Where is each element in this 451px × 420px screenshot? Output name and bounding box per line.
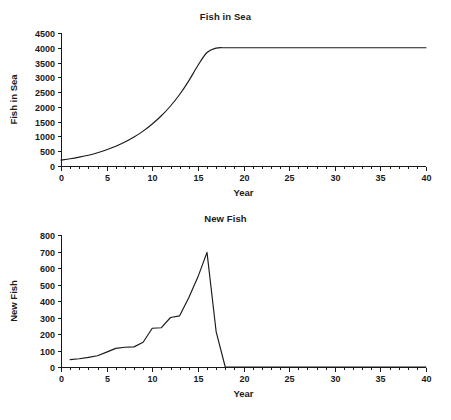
y-tick-label: 100 (40, 347, 55, 357)
plot-svg-fish-in-sea: 0500100015002000250030003500400045000510… (0, 23, 451, 205)
axis-lines (62, 235, 427, 368)
x-tick-label: 25 (284, 374, 294, 384)
x-tick-label: 0 (59, 173, 64, 183)
chart-title-new-fish: New Fish (0, 210, 451, 225)
y-axis-title: Fish in Sea (8, 74, 19, 125)
x-tick-label: 5 (105, 173, 110, 183)
x-tick-label: 15 (193, 173, 203, 183)
chart-title-fish-in-sea: Fish in Sea (0, 8, 451, 23)
y-tick-label: 400 (40, 297, 55, 307)
x-tick-label: 35 (375, 173, 385, 183)
y-tick-label: 3000 (35, 73, 55, 83)
y-tick-label: 4500 (35, 29, 55, 39)
y-tick-label: 2000 (35, 103, 55, 113)
x-tick-label: 15 (193, 374, 203, 384)
series-line-new-fish (70, 252, 426, 367)
x-tick-label: 30 (330, 374, 340, 384)
x-tick-label: 10 (147, 374, 157, 384)
x-tick-label: 20 (239, 173, 249, 183)
y-tick-label: 1500 (35, 118, 55, 128)
y-tick-label: 500 (40, 281, 55, 291)
x-tick-label: 35 (375, 374, 385, 384)
series-line-fish-in-sea (61, 48, 426, 160)
y-tick-label: 800 (40, 231, 55, 241)
x-tick-label: 5 (105, 374, 110, 384)
x-axis-title: Year (233, 187, 253, 198)
x-tick-label: 40 (421, 173, 431, 183)
y-tick-label: 0 (50, 363, 55, 373)
y-axis-title: New Fish (8, 280, 19, 322)
plot-area-new-fish: 0100200300400500600700800051015202530354… (0, 225, 451, 415)
x-tick-label: 40 (421, 374, 431, 384)
x-axis-title: Year (233, 388, 253, 399)
y-tick-label: 700 (40, 248, 55, 258)
y-tick-label: 1000 (35, 132, 55, 142)
y-tick-label: 200 (40, 330, 55, 340)
y-tick-label: 300 (40, 314, 55, 324)
plot-area-fish-in-sea: 0500100015002000250030003500400045000510… (0, 23, 451, 205)
y-tick-label: 500 (40, 147, 55, 157)
chart-new-fish: New Fish 0100200300400500600700800051015… (0, 210, 451, 420)
y-tick-label: 4000 (35, 44, 55, 54)
plot-svg-new-fish: 0100200300400500600700800051015202530354… (0, 225, 451, 415)
y-tick-label: 3500 (35, 59, 55, 69)
x-tick-label: 20 (239, 374, 249, 384)
x-tick-label: 30 (330, 173, 340, 183)
chart-fish-in-sea: Fish in Sea 0500100015002000250030003500… (0, 8, 451, 208)
y-tick-label: 600 (40, 264, 55, 274)
x-tick-label: 25 (284, 173, 294, 183)
x-tick-label: 10 (147, 173, 157, 183)
y-tick-label: 2500 (35, 88, 55, 98)
x-tick-label: 0 (59, 374, 64, 384)
y-tick-label: 0 (50, 162, 55, 172)
